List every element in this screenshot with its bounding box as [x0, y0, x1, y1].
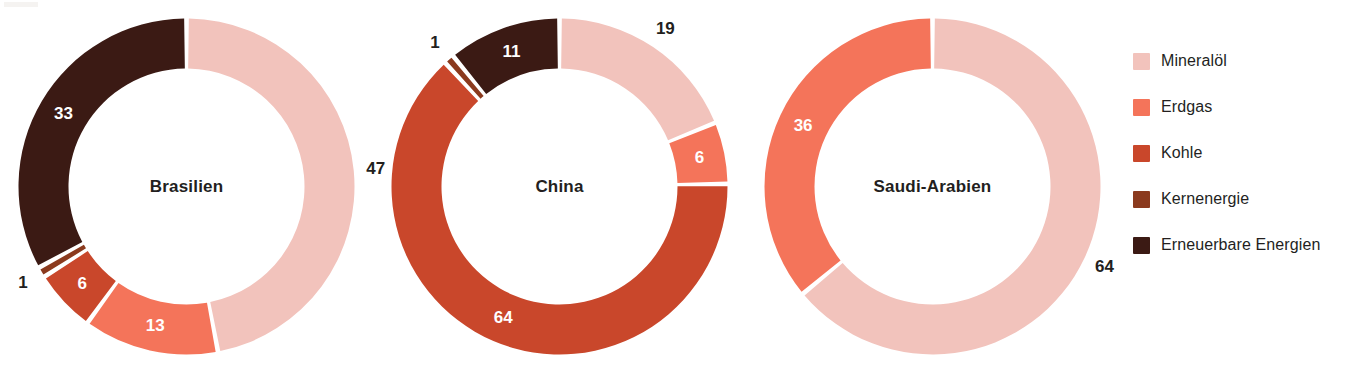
legend-swatch-icon: [1133, 237, 1150, 254]
donut-slice-erneuerbare-energien: [18, 19, 184, 266]
donut-ring: [746, 0, 1119, 373]
chart-legend: MineralölErdgasKohleKernenergieErneuerba…: [1133, 52, 1320, 254]
donut-ring: [373, 0, 746, 373]
donut-ring: [0, 0, 373, 373]
donut-charts-container: Brasilien47136133China19664111Saudi-Arab…: [0, 0, 1119, 373]
legend-swatch-icon: [1133, 191, 1150, 208]
legend-item-kernenergie[interactable]: Kernenergie: [1133, 190, 1320, 208]
legend-item-label: Kernenergie: [1161, 190, 1249, 208]
donut-chart-saudi-arabien: Saudi-Arabien6436: [746, 0, 1119, 373]
legend-item-label: Kohle: [1161, 144, 1202, 162]
legend-item-label: Mineralöl: [1161, 52, 1227, 70]
legend-item-erdgas[interactable]: Erdgas: [1133, 98, 1320, 116]
donut-slice-mineralöl: [561, 19, 714, 141]
legend-item-mineralöl[interactable]: Mineralöl: [1133, 52, 1320, 70]
donut-slice-erdgas: [764, 19, 930, 292]
legend-swatch-icon: [1133, 145, 1150, 162]
legend-item-erneuerbare-energien[interactable]: Erneuerbare Energien: [1133, 236, 1320, 254]
legend-swatch-icon: [1133, 53, 1150, 70]
legend-item-label: Erneuerbare Energien: [1161, 236, 1320, 254]
donut-chart-china: China19664111: [373, 0, 746, 373]
donut-slice-mineralöl: [188, 19, 354, 352]
donut-chart-brasilien: Brasilien47136133: [0, 0, 373, 373]
donut-slice-erdgas: [90, 283, 216, 355]
donut-chart-figure: Brasilien47136133China19664111Saudi-Arab…: [0, 0, 1372, 373]
legend-item-label: Erdgas: [1161, 98, 1212, 116]
legend-item-kohle[interactable]: Kohle: [1133, 144, 1320, 162]
legend-swatch-icon: [1133, 99, 1150, 116]
